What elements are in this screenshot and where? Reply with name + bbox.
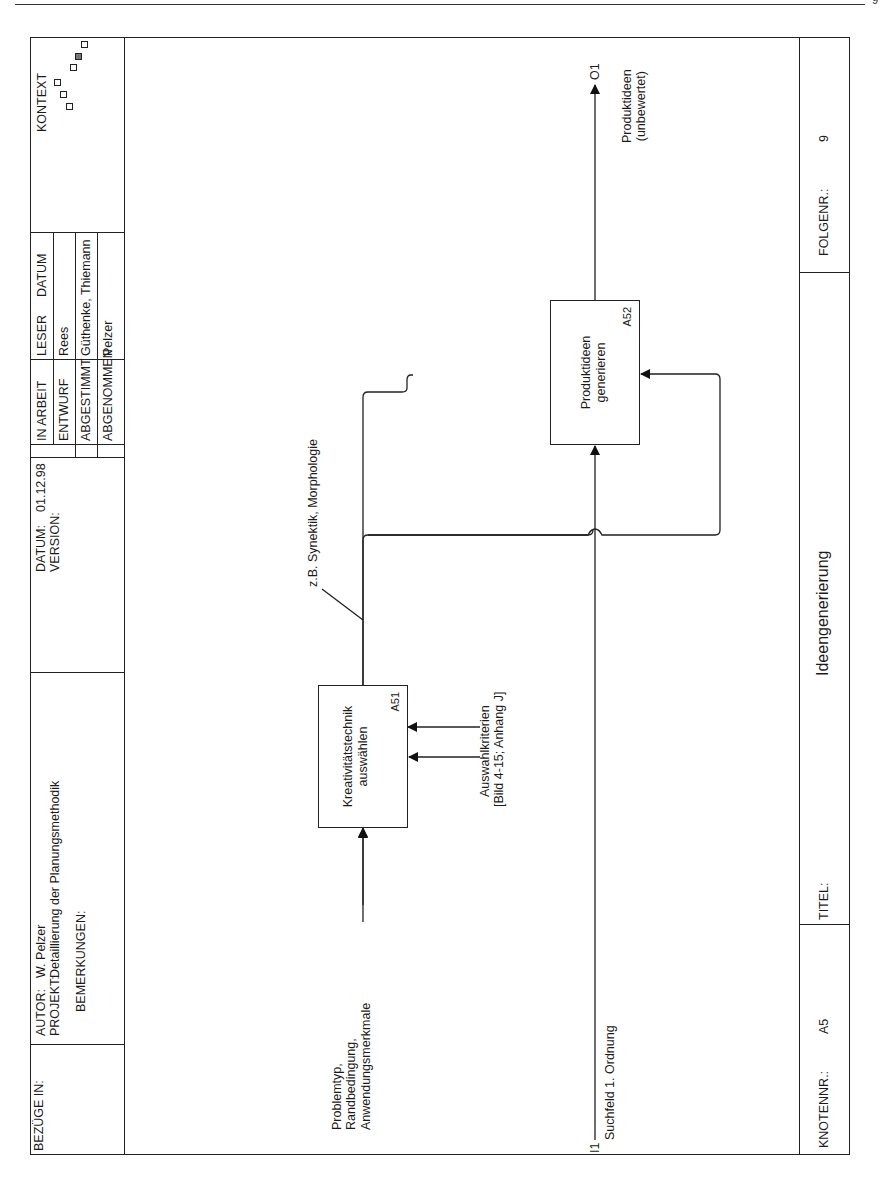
knotennr-label: KNOTENNR.: [818,1071,832,1148]
titel-label: TITEL: [818,882,832,920]
folgenr-cell: FOLGENR.: 9 [800,36,849,272]
i1-code: I1 [588,1143,602,1153]
titel-value: Ideengenerierung [814,551,832,676]
feedback-control-arrow-a52 [368,374,720,535]
idef0-arrows-main [0,0,886,1187]
idef0-sheet: BEZÜGE IN: AUTOR: W. Pelzer PROJEKT: Det… [0,0,886,1187]
control-a51-label: Auswahlkriterien [Bild 4-15; Anhang J] [478,692,507,807]
knotennr-value: A5 [818,1019,832,1034]
o1-label: Produktideen (unbewertet) [620,69,649,143]
folgenr-value: 9 [818,135,832,142]
mechanism-note-label: z.B. Synektik, Morphologie [306,439,320,587]
knotennr-cell: KNOTENNR.: A5 [800,924,849,1154]
footer-form: KNOTENNR.: A5 TITEL: Ideengenerierung FO… [800,37,850,1155]
note-leader-line [322,589,363,620]
folgenr-label: FOLGENR.: [818,189,832,256]
titel-cell: TITEL: Ideengenerierung [800,272,849,924]
i1-label: Suchfeld 1. Ordnung [603,1025,617,1140]
input-a51-label: Problemtyp, Randbedingung, Anwendungsmer… [330,1003,373,1130]
o1-code: O1 [588,63,602,80]
